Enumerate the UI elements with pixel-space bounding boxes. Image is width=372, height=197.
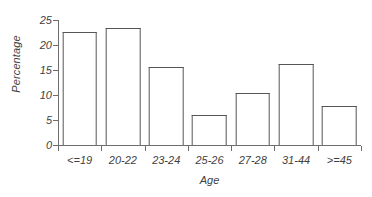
y-axis-tick-mark bbox=[53, 45, 58, 46]
y-axis-tick-label-group: 0510152025 bbox=[26, 0, 52, 197]
bar-slot bbox=[58, 20, 101, 145]
x-axis-tick-label: 20-22 bbox=[109, 154, 137, 167]
x-axis-tick-mark bbox=[188, 146, 189, 151]
bar-27-28[interactable] bbox=[235, 93, 270, 145]
x-axis-title: Age bbox=[58, 174, 361, 186]
bar-20-22[interactable] bbox=[106, 28, 141, 145]
y-axis-tick-label: 0 bbox=[26, 140, 52, 151]
bar-<=19[interactable] bbox=[62, 32, 97, 145]
bar-slot bbox=[145, 20, 188, 145]
bar-slot bbox=[318, 20, 361, 145]
y-axis-tick-label: 10 bbox=[26, 90, 52, 101]
y-axis-tick-mark bbox=[53, 95, 58, 96]
bar-slot bbox=[188, 20, 231, 145]
x-axis-tick-mark bbox=[145, 146, 146, 151]
bar->=45[interactable] bbox=[322, 106, 357, 145]
y-axis-tick-label: 5 bbox=[26, 115, 52, 126]
y-axis-tick-mark bbox=[53, 120, 58, 121]
x-axis-tick-label: 27-28 bbox=[239, 154, 267, 167]
bar-slot bbox=[274, 20, 317, 145]
x-axis-tick-label: >=45 bbox=[327, 154, 352, 167]
y-axis-title: Percentage bbox=[10, 19, 22, 109]
bar-chart-figure: Percentage 0510152025 Age <=1920-2223-24… bbox=[0, 0, 372, 197]
x-axis-tick-mark bbox=[274, 146, 275, 151]
x-axis-line bbox=[58, 145, 361, 146]
x-axis-tick-label: 23-24 bbox=[152, 154, 180, 167]
x-axis-tick-mark bbox=[361, 146, 362, 151]
x-axis-tick-mark bbox=[231, 146, 232, 151]
y-axis-tick-mark bbox=[53, 20, 58, 21]
x-axis-tick-mark bbox=[101, 146, 102, 151]
y-axis-tick-label: 20 bbox=[26, 40, 52, 51]
bar-31-44[interactable] bbox=[279, 64, 314, 145]
x-axis-tick-label: 25-26 bbox=[195, 154, 223, 167]
y-axis-tick-label: 25 bbox=[26, 15, 52, 26]
x-axis-tick-label: 31-44 bbox=[282, 154, 310, 167]
x-axis-tick-label: <=19 bbox=[67, 154, 92, 167]
bar-slot bbox=[101, 20, 144, 145]
x-axis-tick-mark bbox=[58, 146, 59, 151]
x-axis-tick-mark bbox=[318, 146, 319, 151]
y-axis-tick-mark bbox=[53, 70, 58, 71]
plot-area bbox=[58, 20, 361, 145]
bar-23-24[interactable] bbox=[149, 67, 184, 145]
y-axis-tick-label: 15 bbox=[26, 65, 52, 76]
bar-25-26[interactable] bbox=[192, 115, 227, 145]
bar-slot bbox=[231, 20, 274, 145]
